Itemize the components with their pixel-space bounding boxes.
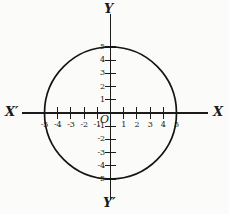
x-tick-label: -2: [80, 121, 87, 129]
x-tick-label: 5: [174, 121, 179, 129]
x-tick-label: 3: [148, 121, 153, 129]
y-tick-label: 3: [95, 69, 105, 77]
y-tick-label: 4: [95, 56, 105, 64]
y-tick-label: 5: [95, 43, 105, 51]
y-tick-label: -4: [91, 162, 105, 170]
x-tick-label: -4: [54, 121, 61, 129]
y-tick-label: 1: [95, 96, 105, 104]
x-negative-axis-label: X′: [5, 105, 19, 118]
x-tick-label: 2: [134, 121, 139, 129]
y-positive-axis-label: Y: [104, 2, 113, 15]
x-tick-label: -3: [67, 121, 74, 129]
x-tick-label: 4: [161, 121, 166, 129]
y-tick-label: 2: [95, 83, 105, 91]
y-tick-label: -3: [91, 149, 105, 157]
y-negative-axis-label: Y′: [103, 196, 116, 209]
coordinate-plane-figure: X′ X Y Y′ O -5 -4 -3 -2 -1 1 2 3 4 5 1 2…: [0, 0, 229, 214]
x-positive-axis-label: X: [213, 105, 223, 118]
y-tick-label: -2: [91, 135, 105, 143]
plot-canvas: [0, 0, 229, 214]
x-tick-label: -5: [41, 121, 48, 129]
y-tick-label: -1: [91, 122, 105, 130]
y-tick-label: -5: [91, 175, 105, 183]
x-tick-label: 1: [121, 121, 126, 129]
